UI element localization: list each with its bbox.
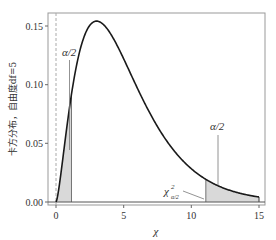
x-tick-label: 10 xyxy=(186,210,196,221)
x-tick-label: 15 xyxy=(254,210,264,221)
chi-superscript: 2 xyxy=(171,183,175,191)
x-axis: 0 5 10 15 xyxy=(54,205,265,221)
x-tick-label: 0 xyxy=(54,210,59,221)
y-axis: 0.00 0.05 0.10 0.15 xyxy=(26,21,49,208)
y-tick-label: 0.00 xyxy=(26,197,44,208)
plot-frame xyxy=(48,13,265,205)
y-tick-label: 0.10 xyxy=(26,79,44,90)
alpha-half-label-left: α/2 xyxy=(62,46,77,58)
y-axis-label: 卡方分布，自由度df=5 xyxy=(7,62,18,157)
chi-subscript: α/2 xyxy=(171,194,179,200)
y-tick-label: 0.15 xyxy=(26,21,44,32)
y-tick-label: 0.05 xyxy=(26,138,44,149)
alpha-half-label-right: α/2 xyxy=(210,120,225,132)
chi-square-chart: 0.00 0.05 0.10 0.15 0 5 10 15 χ 卡方分布，自由度… xyxy=(0,0,276,240)
x-tick-label: 5 xyxy=(121,210,126,221)
x-axis-label: χ xyxy=(153,225,160,237)
